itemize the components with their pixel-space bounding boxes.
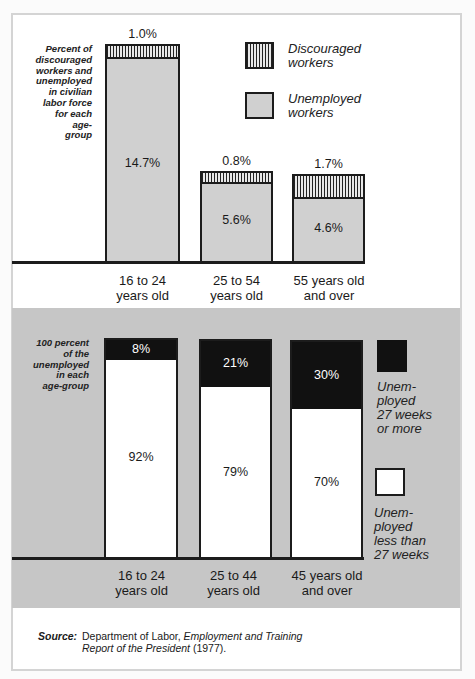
- bar-1-long-label: 8%: [106, 342, 176, 356]
- legend-discouraged-label: Discouraged workers: [288, 42, 361, 70]
- bar-3-long-label: 30%: [292, 368, 361, 382]
- bottom-bar-25-44: 21% 79%: [199, 339, 272, 559]
- bar-1-discouraged-label: 1.0%: [105, 27, 180, 41]
- bottom-category-1: 16 to 24 years old: [94, 568, 189, 598]
- bottom-category-3: 45 years old and over: [276, 568, 378, 598]
- source-label: Source:: [38, 630, 77, 642]
- legend-long-term-swatch: [377, 340, 407, 372]
- legend-long-term-label: Unem- ployed 27 weeks or more: [377, 380, 432, 436]
- bar-1-unemployed-label: 14.7%: [107, 156, 178, 170]
- legend-short-term-label: Unem- ployed less than 27 weeks: [374, 506, 429, 562]
- top-category-1: 16 to 24 years old: [95, 273, 190, 303]
- bar-3-short-label: 70%: [292, 475, 361, 489]
- legend-unemployed-swatch: [245, 92, 274, 119]
- legend-unemployed-label: Unemployed workers: [288, 92, 361, 120]
- top-category-3: 55 years old and over: [278, 273, 380, 303]
- legend-short-term-swatch: [375, 468, 405, 496]
- top-chart-x-axis: [12, 261, 365, 264]
- legend-discouraged-swatch: [245, 42, 274, 69]
- top-bar-25-54: 5.6%: [200, 171, 273, 263]
- long-term-segment: 8%: [106, 340, 176, 360]
- top-bar-16-24: 14.7%: [105, 44, 180, 263]
- bottom-bar-16-24: 8% 92%: [104, 338, 178, 559]
- bar-3-discouraged-label: 1.7%: [292, 157, 365, 171]
- top-chart-ylabel-note: Percent of discouraged workers and unemp…: [20, 44, 92, 141]
- long-term-segment: 30%: [292, 342, 361, 409]
- bar-2-short-label: 79%: [201, 465, 270, 479]
- bottom-bar-45-over: 30% 70%: [290, 340, 363, 559]
- discouraged-segment: [294, 176, 363, 199]
- bar-3-unemployed-label: 4.6%: [294, 221, 363, 235]
- top-category-2: 25 to 54 years old: [189, 273, 284, 303]
- bar-2-long-label: 21%: [201, 356, 270, 370]
- bar-2-unemployed-label: 5.6%: [202, 213, 271, 227]
- bottom-chart-ylabel-note: 100 percent of the unemployed in each ag…: [15, 338, 89, 392]
- bar-1-short-label: 92%: [106, 450, 176, 464]
- source-citation: Department of Labor, Employment and Trai…: [82, 630, 302, 654]
- top-bar-55-over: 4.6%: [292, 174, 365, 263]
- bar-2-discouraged-label: 0.8%: [200, 154, 273, 168]
- bottom-category-2: 25 to 44 years old: [186, 568, 281, 598]
- discouraged-segment: [202, 173, 271, 184]
- discouraged-segment: [107, 46, 178, 59]
- long-term-segment: 21%: [201, 341, 270, 387]
- bottom-chart-x-axis: [12, 557, 364, 560]
